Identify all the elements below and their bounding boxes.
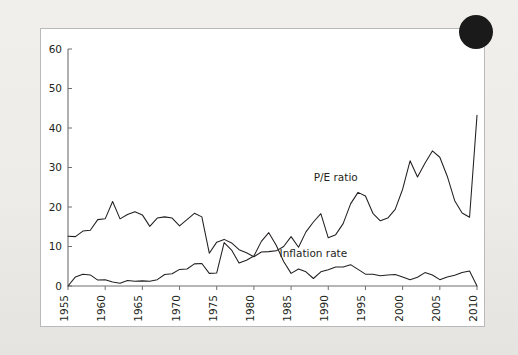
x-tick-label: 2000 — [393, 295, 405, 322]
x-tick-label: 2005 — [430, 295, 442, 322]
chart-panel: 0102030405060195519601965197019751980198… — [40, 28, 485, 327]
x-tick-label: 1960 — [95, 295, 107, 322]
y-tick-label: 20 — [49, 201, 62, 213]
x-tick-label: 1980 — [244, 295, 256, 322]
figure-root: 0102030405060195519601965197019751980198… — [0, 0, 518, 355]
y-tick-label: 50 — [49, 82, 62, 94]
series-label-p-e-ratio: P/E ratio — [314, 171, 358, 183]
y-tick-label: 30 — [49, 161, 62, 173]
y-tick-label: 10 — [49, 240, 62, 252]
x-tick-label: 1970 — [170, 295, 182, 322]
x-tick-label: 1995 — [355, 295, 367, 322]
x-tick-label: 1975 — [207, 295, 219, 322]
y-tick-label: 0 — [55, 280, 62, 292]
x-tick-label: 1985 — [281, 295, 293, 322]
x-tick-label: 1990 — [318, 295, 330, 322]
y-tick-label: 60 — [49, 43, 62, 55]
x-tick-label: 1965 — [132, 295, 144, 322]
x-tick-label: 1955 — [58, 295, 70, 322]
x-tick-label: 2010 — [467, 295, 479, 322]
series-label-inflation-rate: Inflation rate — [280, 247, 348, 259]
series-line-p-e-ratio — [68, 115, 477, 256]
line-chart: 0102030405060195519601965197019751980198… — [41, 29, 484, 326]
y-tick-label: 40 — [49, 122, 62, 134]
series-line-inflation-rate — [68, 233, 477, 286]
